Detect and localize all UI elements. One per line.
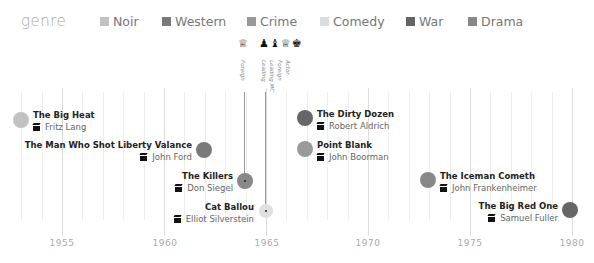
film-director: Fritz Lang [33,121,95,133]
film-director: Robert Aldrich [317,120,394,132]
film-label[interactable]: The Dirty DozenRobert Aldrich [317,108,394,132]
grid-line [409,92,410,220]
film-title: The Big Heat [33,109,95,121]
film-point[interactable] [259,204,273,218]
award-icons: ♕ [238,38,248,50]
award-label: Leading [261,60,267,92]
director-name: John Boorman [329,151,389,163]
film-director: John Ford [10,151,192,163]
director-name: Don Siegel [187,182,233,194]
legend-label: Comedy [333,14,385,29]
legend-swatch [468,17,477,26]
film-label[interactable]: Cat BallouElliot Silverstein [150,201,254,225]
legend-label: Noir [113,14,139,29]
clapperboard-icon [175,184,183,192]
film-director: John Boorman [317,151,389,163]
legend-item-crime[interactable]: Crime [247,14,297,29]
legend-swatch [100,17,109,26]
oscar-icon: ♟ [259,38,269,50]
film-director: Samuel Fuller [450,212,558,224]
award-labels: LeadingLeading MCForeignActor [261,60,291,92]
legend-swatch [162,17,171,26]
legend-swatch [320,17,329,26]
film-title: Point Blank [317,139,389,151]
award-connector-line [265,92,266,204]
film-label[interactable]: The Iceman ComethJohn Frankenheimer [440,170,537,194]
clapperboard-icon [140,153,148,161]
clapperboard-icon [33,123,41,131]
legend-item-war[interactable]: War [406,14,443,29]
clapperboard-icon [488,214,496,222]
film-label[interactable]: Point BlankJohn Boorman [317,139,389,163]
legend-label: War [419,14,443,29]
film-title: Cat Ballou [150,201,254,213]
film-point[interactable] [297,141,313,157]
film-point[interactable] [196,142,212,158]
x-tick-label: 1970 [356,238,381,248]
chess-piece-icon: ♝ [270,38,280,50]
award-label: Leading MC [269,60,275,92]
director-name: Robert Aldrich [329,120,389,132]
legend-item-noir[interactable]: Noir [100,14,139,29]
director-name: Fritz Lang [45,121,86,133]
director-name: Samuel Fuller [500,212,558,224]
x-tick-label: 1965 [255,238,280,248]
film-label[interactable]: The KillersDon Siegel [150,170,233,194]
golden-globe-icon: ♕ [281,38,291,50]
film-title: The Dirty Dozen [317,108,394,120]
film-point[interactable] [420,172,436,188]
clapperboard-icon [317,153,325,161]
director-name: John Frankenheimer [452,182,537,194]
legend-item-drama[interactable]: Drama [468,14,523,29]
legend-item-comedy[interactable]: Comedy [320,14,385,29]
award-connector-line [244,92,245,174]
legend-label: Crime [260,14,297,29]
film-label[interactable]: The Big Red OneSamuel Fuller [450,200,558,224]
award-label: Foreign [240,60,246,81]
clapperboard-icon [440,184,448,192]
film-title: The Iceman Cometh [440,170,537,182]
legend-label: Drama [481,14,523,29]
film-title: The Killers [150,170,233,182]
clapperboard-icon [317,122,325,130]
film-point[interactable] [13,112,29,128]
award-label: Actor [285,60,291,92]
legend-item-western[interactable]: Western [162,14,226,29]
legend-title: genre [21,12,66,30]
x-tick-label: 1975 [458,238,483,248]
film-director: Don Siegel [150,182,233,194]
director-name: Elliot Silverstein [186,213,254,225]
x-tick-label: 1960 [153,238,178,248]
film-label[interactable]: The Man Who Shot Liberty ValanceJohn For… [10,139,192,163]
award-marker-dot [265,210,267,212]
legend: genre NoirWesternCrimeComedyWarDrama [0,12,594,32]
film-director: Elliot Silverstein [150,213,254,225]
film-point[interactable] [297,110,313,126]
legend-swatch [406,17,415,26]
film-title: The Big Red One [450,200,558,212]
film-label[interactable]: The Big HeatFritz Lang [33,109,95,133]
award-label: Foreign [277,60,283,92]
legend-label: Western [175,14,226,29]
film-point[interactable] [237,173,253,189]
grid-line [429,92,430,220]
film-point[interactable] [562,202,578,218]
grid-line [286,92,287,220]
director-name: John Ford [152,151,192,163]
award-icons: ♟♝♕♚ [259,38,302,50]
bafta-icon: ♚ [292,38,302,50]
award-labels: Foreign [240,60,246,81]
film-director: John Frankenheimer [440,182,537,194]
golden-globe-icon: ♕ [238,38,248,50]
award-marker-dot [244,180,246,182]
legend-swatch [247,17,256,26]
x-tick-label: 1980 [560,238,585,248]
film-title: The Man Who Shot Liberty Valance [10,139,192,151]
x-tick-label: 1955 [50,238,75,248]
clapperboard-icon [174,215,182,223]
